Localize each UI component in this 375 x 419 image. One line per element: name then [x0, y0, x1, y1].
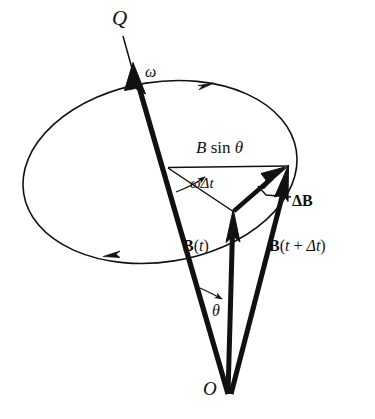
- label-axis-Q: Q: [112, 8, 127, 29]
- label-origin-O: O: [203, 379, 217, 398]
- label-B-of-t-plus-delta-t: B(t + Δt): [269, 238, 326, 254]
- delta-t-symbol-2: Δt: [306, 237, 320, 254]
- label-B-of-t: B(t): [183, 238, 209, 254]
- label-delta-B: ΔB: [292, 193, 313, 209]
- B-t-dt-shaft: [231, 193, 283, 394]
- omega-arrowhead: [125, 63, 146, 95]
- paren-close-2: ): [320, 237, 325, 254]
- b-sin-theta-sin: sin: [206, 138, 234, 157]
- precession-diagram: Q ω B sin θ ωΔt ΔB B(t) B(t + Δt) θ O: [0, 0, 375, 419]
- paren-close: ): [203, 237, 208, 254]
- B-bold-symbol: B: [183, 237, 194, 254]
- b-sin-theta-B: B: [196, 138, 206, 157]
- precession-direction-arrow-bottom: [103, 251, 120, 258]
- label-omega-delta-t: ωΔt: [190, 176, 214, 191]
- plus-symbol: +: [289, 237, 306, 254]
- label-b-sin-theta: B sin θ: [196, 139, 243, 156]
- label-theta: θ: [212, 303, 220, 319]
- delta-t-symbol: Δt: [201, 175, 214, 191]
- precession-direction-arrow-top: [198, 83, 214, 90]
- rotation-axis-group: [123, 36, 228, 394]
- label-omega: ω: [145, 64, 156, 80]
- b-sin-theta-theta: θ: [235, 138, 243, 157]
- omega-symbol: ω: [190, 175, 201, 191]
- diagram-canvas: [0, 0, 375, 419]
- theta-angle-group: [200, 288, 222, 299]
- B-bold-symbol-2: B: [269, 237, 280, 254]
- b-sin-theta-chord: [168, 166, 288, 168]
- theta-arc-arrow: [200, 288, 222, 299]
- B-t-shaft: [228, 232, 233, 394]
- B-t-dt-vector-group: [231, 165, 289, 394]
